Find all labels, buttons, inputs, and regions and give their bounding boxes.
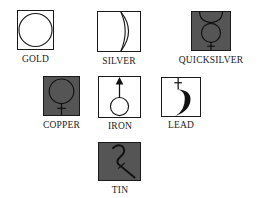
mars-icon	[99, 77, 140, 117]
mercury-icon	[192, 12, 230, 50]
quicksilver-label: QUICKSILVER	[176, 55, 246, 65]
iron-box	[98, 76, 141, 118]
lead-box	[161, 77, 201, 117]
crescent-moon-icon	[98, 12, 140, 51]
copper-box	[43, 76, 80, 116]
quicksilver-box	[191, 11, 231, 51]
jupiter-icon	[99, 143, 140, 180]
tin-label: TIN	[95, 185, 145, 195]
tin-box	[98, 142, 141, 181]
silver-label: SILVER	[94, 56, 144, 66]
lead-label: LEAD	[156, 120, 206, 130]
gold-box	[17, 10, 54, 50]
sun-circle-icon	[18, 11, 53, 49]
gold-label: GOLD	[12, 54, 59, 64]
silver-box	[97, 11, 141, 52]
copper-label: COPPER	[34, 120, 89, 130]
iron-label: IRON	[95, 121, 145, 131]
saturn-icon	[162, 78, 200, 116]
venus-icon	[44, 77, 79, 115]
